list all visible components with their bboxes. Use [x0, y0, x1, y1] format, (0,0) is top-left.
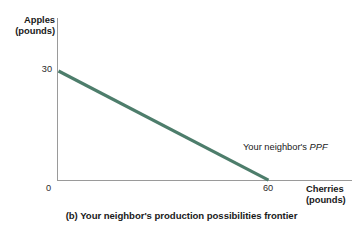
origin-tick-0: 0 — [20, 183, 51, 194]
y-axis-title-name: Apples — [0, 14, 55, 25]
ppf-annotation-acronym: PPF — [310, 142, 328, 152]
y-axis-tick-30: 30 — [20, 64, 52, 75]
ppf-series-annotation: Your neighbor's PPF — [243, 142, 328, 153]
x-axis-tick-60: 60 — [253, 183, 283, 194]
x-axis-title: Cherries (pounds) — [306, 183, 363, 205]
ppf-annotation-text: Your neighbor's — [243, 142, 310, 152]
y-axis-title: Apples (pounds) — [0, 14, 55, 36]
ppf-line-series — [59, 71, 269, 180]
x-axis-title-units: (pounds) — [306, 194, 363, 205]
y-axis-title-units: (pounds) — [0, 25, 55, 36]
ppf-figure: Apples (pounds) Cherries (pounds) 30 0 6… — [0, 0, 363, 229]
figure-caption: (b) Your neighbor's production possibili… — [0, 210, 363, 221]
x-axis-title-name: Cherries — [306, 183, 363, 194]
